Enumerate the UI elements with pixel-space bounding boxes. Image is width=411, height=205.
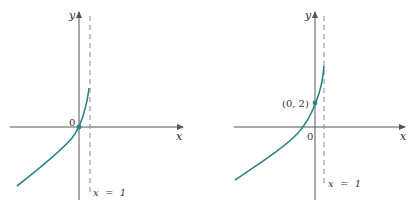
origin-label: 0 bbox=[307, 131, 313, 142]
asymptote-label: x = 1 bbox=[328, 178, 361, 189]
function-curve bbox=[235, 66, 324, 180]
y-axis-label: y bbox=[68, 9, 76, 22]
y-axis-label: y bbox=[304, 9, 312, 22]
graph-right: y x 0 (0, 2) x = 1 bbox=[234, 9, 407, 200]
graph-left: y x 0 x = 1 bbox=[10, 9, 183, 200]
point-label: (0, 2) bbox=[282, 98, 309, 109]
function-curve bbox=[17, 88, 89, 186]
origin-point bbox=[77, 125, 82, 130]
x-axis-label: x bbox=[176, 130, 183, 143]
asymptote-label: x = 1 bbox=[93, 187, 126, 198]
x-axis-label: x bbox=[400, 130, 407, 143]
origin-label: 0 bbox=[69, 117, 75, 128]
y-intercept-point bbox=[313, 101, 318, 106]
figure: y x 0 x = 1 y x 0 (0, 2) x = 1 bbox=[0, 0, 411, 205]
